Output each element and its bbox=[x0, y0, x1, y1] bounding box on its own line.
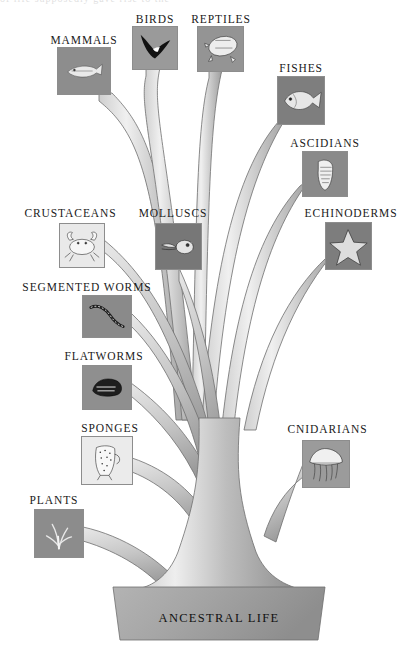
node-label-flatworms: FLATWORMS bbox=[58, 350, 150, 362]
node-label-segmented-worms: SEGMENTED WORMS bbox=[12, 281, 162, 293]
turtle-icon[interactable] bbox=[197, 26, 244, 72]
fish-icon[interactable] bbox=[277, 76, 325, 125]
sponge-icon[interactable] bbox=[81, 436, 133, 485]
node-label-cnidarians: CNIDARIANS bbox=[279, 423, 376, 435]
node-label-mammals: MAMMALS bbox=[38, 34, 130, 46]
squid-icon[interactable] bbox=[155, 223, 202, 270]
node-label-ascidians: ASCIDIANS bbox=[281, 137, 369, 149]
node-label-plants: PLANTS bbox=[22, 494, 86, 506]
node-label-echinoderms: ECHINODERMS bbox=[297, 207, 405, 219]
node-label-reptiles: REPTILES bbox=[186, 13, 256, 25]
segmented-worm-icon[interactable] bbox=[82, 295, 132, 338]
node-label-fishes: FISHES bbox=[267, 62, 335, 74]
node-label-molluscs: MOLLUSCS bbox=[130, 207, 216, 219]
jellyfish-icon[interactable] bbox=[302, 440, 350, 488]
bird-silhouette-icon[interactable] bbox=[132, 26, 178, 70]
node-label-birds: BIRDS bbox=[122, 13, 188, 25]
sea-squirt-icon[interactable] bbox=[302, 151, 348, 197]
ancestral-life-label: ANCESTRAL LIFE bbox=[113, 611, 325, 626]
tree-of-life-diagram: of life supposedly gave rise to the bbox=[0, 0, 405, 649]
flatworm-icon[interactable] bbox=[82, 365, 132, 410]
starfish-icon[interactable] bbox=[325, 222, 372, 270]
fish-like-mammal-icon[interactable] bbox=[57, 47, 111, 95]
node-label-crustaceans: CRUSTACEANS bbox=[14, 207, 127, 219]
plant-sprout-icon[interactable] bbox=[34, 509, 84, 558]
crab-icon[interactable] bbox=[59, 223, 105, 268]
node-label-sponges: SPONGES bbox=[72, 422, 148, 434]
